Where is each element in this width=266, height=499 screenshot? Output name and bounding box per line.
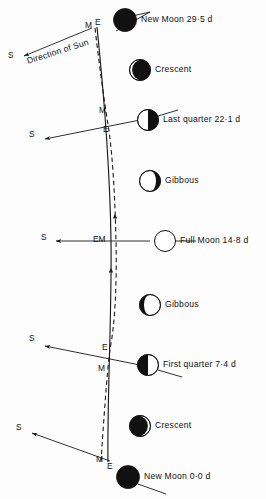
phase-label-new-moon-bottom: New Moon 0·0 d xyxy=(144,471,211,481)
moon-waning-crescent-icon xyxy=(130,60,154,81)
moon-path-group xyxy=(95,28,116,462)
phase-label-crescent-bottom: Crescent xyxy=(155,420,191,430)
node-label-bot-moon: M xyxy=(96,454,103,464)
sun-label-bottom: S xyxy=(16,422,22,432)
moon-new-icon xyxy=(114,9,137,32)
phase-label-first-quarter: First quarter 7·4 d xyxy=(163,359,236,369)
sun-label-fq: S xyxy=(29,333,35,343)
earth-path-group xyxy=(97,27,111,462)
phase-label-last-quarter: Last quarter 22·1 d xyxy=(163,114,240,124)
sun-label-top: S xyxy=(8,50,14,60)
moon-waxing-crescent-icon xyxy=(127,416,151,437)
moon-phase-diagram xyxy=(0,0,266,499)
sun-label-lq: S xyxy=(29,129,35,139)
node-label-fq-moon: M xyxy=(98,363,105,373)
moon-new-icon-bottom xyxy=(117,466,140,489)
moon-orbit-path xyxy=(95,28,116,462)
phase-label-gibbous-bottom: Gibbous xyxy=(165,299,199,309)
phase-label-full-moon: Full Moon 14·8 d xyxy=(180,235,249,245)
moon-first-quarter-icon xyxy=(136,354,159,376)
phase-label-new-moon-top: New Moon 29·5 d xyxy=(141,14,213,24)
node-label-full-earth-moon: EM xyxy=(93,234,106,244)
node-label-lq-earth: E xyxy=(103,124,109,134)
node-label-top-moon: M xyxy=(85,20,92,30)
phase-label-crescent-top: Crescent xyxy=(155,64,191,74)
phase-label-gibbous-top: Gibbous xyxy=(165,175,199,185)
moon-waxing-gibbous-icon xyxy=(140,295,161,316)
moon-last-quarter-icon xyxy=(138,109,161,131)
sun-arrow-lq xyxy=(45,120,140,139)
moon-full-icon xyxy=(155,231,176,252)
node-label-top-earth: E xyxy=(95,17,101,27)
node-label-fq-earth: E xyxy=(102,342,108,352)
sun-direction-arrows xyxy=(24,28,150,461)
node-label-bot-earth: E xyxy=(107,461,113,471)
sun-label-full: S xyxy=(41,232,47,242)
moon-waning-gibbous-icon xyxy=(140,171,161,192)
sun-arrow-fq xyxy=(45,346,140,365)
earth-orbit-path xyxy=(97,27,111,462)
node-label-lq-moon: M xyxy=(99,105,106,115)
